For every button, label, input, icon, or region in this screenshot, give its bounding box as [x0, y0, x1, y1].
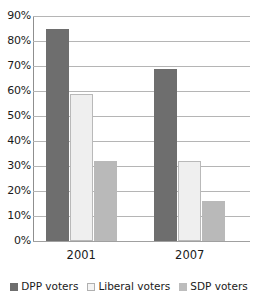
y-axis-tick-labels: 90%80%70%60%50%40%30%20%10%0%	[0, 0, 31, 304]
y-axis-tick-label: 20%	[1, 185, 31, 196]
gridline	[33, 16, 250, 17]
x-axis-tick-label: 2001	[46, 249, 117, 261]
plot-area	[33, 16, 250, 241]
bar	[70, 94, 93, 242]
bar-chart: 90%80%70%60%50%40%30%20%10%0% 20012007 D…	[0, 0, 258, 304]
bar	[178, 161, 201, 241]
y-axis-tick-label: 60%	[1, 85, 31, 96]
legend-item[interactable]: SDP voters	[179, 281, 247, 292]
legend-swatch-icon	[87, 283, 95, 291]
bar	[94, 161, 117, 241]
x-axis-tick-label: 2007	[154, 249, 225, 261]
axis-baseline	[33, 241, 250, 242]
legend-label: SDP voters	[190, 281, 247, 292]
y-axis-tick-label: 30%	[1, 160, 31, 171]
y-axis-tick-label: 10%	[1, 210, 31, 221]
y-axis-tick-label: 50%	[1, 110, 31, 121]
legend-label: Liberal voters	[98, 281, 170, 292]
legend-item[interactable]: DPP voters	[10, 281, 78, 292]
bar	[46, 29, 69, 242]
legend-item[interactable]: Liberal voters	[87, 281, 170, 292]
y-axis-tick-label: 40%	[1, 135, 31, 146]
legend-label: DPP voters	[21, 281, 78, 292]
y-axis-tick-label: 80%	[1, 35, 31, 46]
legend-swatch-icon	[10, 283, 18, 291]
chart-legend: DPP votersLiberal votersSDP voters	[0, 281, 258, 292]
y-axis-tick-label: 0%	[1, 235, 31, 246]
y-axis-tick-label: 70%	[1, 60, 31, 71]
y-axis-tick-label: 90%	[1, 10, 31, 21]
bar	[154, 69, 177, 242]
bar	[202, 201, 225, 241]
legend-swatch-icon	[179, 283, 187, 291]
